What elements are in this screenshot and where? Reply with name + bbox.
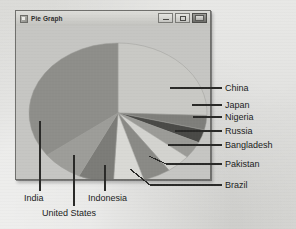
chart-client-area xyxy=(16,26,210,179)
window-title: Pie Graph xyxy=(31,14,63,23)
maximize-icon xyxy=(180,16,186,21)
pie-chart xyxy=(16,26,210,179)
pie-slice-china[interactable] xyxy=(118,43,207,115)
close-icon xyxy=(195,15,204,21)
minimize-button[interactable] xyxy=(158,13,173,23)
maximize-button[interactable] xyxy=(175,13,190,23)
app-window-icon xyxy=(20,15,28,23)
window-controls xyxy=(158,13,207,23)
window-titlebar[interactable]: Pie Graph xyxy=(16,11,210,27)
pie-slices xyxy=(29,43,207,179)
close-button[interactable] xyxy=(192,13,207,23)
pie-graph-window: Pie Graph xyxy=(15,10,211,180)
minimize-icon xyxy=(163,19,169,20)
